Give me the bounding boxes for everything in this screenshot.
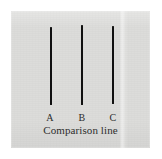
comparison-line-figure: A B C Comparison line: [0, 0, 162, 159]
comparison-line-b: [81, 25, 83, 105]
comparison-line-b-label: B: [74, 113, 90, 123]
comparison-line-a-label: A: [42, 113, 58, 123]
figure-caption: Comparison line: [11, 124, 150, 136]
comparison-line-c-label: C: [105, 113, 121, 123]
comparison-line-c: [112, 26, 114, 104]
comparison-line-a: [50, 27, 52, 105]
